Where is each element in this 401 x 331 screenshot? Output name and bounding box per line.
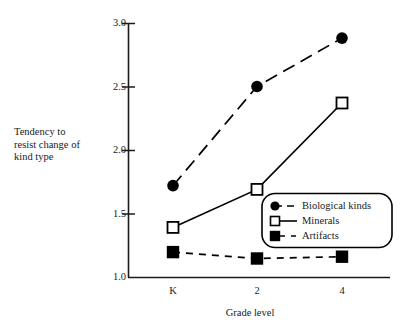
series-artifacts — [168, 247, 348, 264]
artifacts-marker-2 — [252, 253, 263, 264]
minerals-marker-4 — [337, 98, 348, 109]
artifacts-marker-k — [168, 247, 179, 258]
minerals-marker-2 — [252, 184, 263, 195]
legend-label-biological-kinds: Biological kinds — [302, 200, 371, 211]
biological-kinds-marker-4 — [336, 32, 348, 44]
series-biological-kinds — [167, 32, 348, 191]
minerals-marker-k — [168, 222, 179, 233]
biological-kinds-marker-2 — [251, 81, 263, 93]
biological-kinds-line — [173, 38, 342, 186]
artifacts-marker-4 — [337, 251, 348, 262]
legend-label-artifacts: Artifacts — [302, 230, 339, 241]
legend-label-minerals: Minerals — [302, 215, 339, 226]
chart-figure: Tendency to resist change of kind type 3… — [0, 0, 401, 331]
legend-marker-artifacts — [271, 232, 280, 241]
legend-marker-minerals — [271, 217, 280, 226]
chart-plot-area — [0, 0, 401, 331]
biological-kinds-marker-k — [167, 180, 179, 192]
